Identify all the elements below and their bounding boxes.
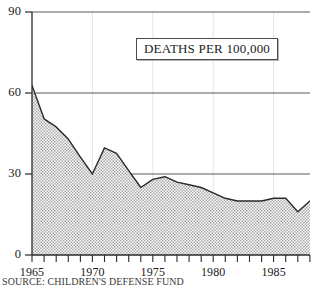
y-tick-label-60: 60 [0, 86, 21, 99]
y-tick-label-90: 90 [0, 5, 21, 18]
y-tick-label-30: 30 [0, 167, 21, 180]
y-tick-marks [25, 12, 32, 255]
chart-title: DEATHS PER 100,000 [144, 42, 270, 55]
source-note: SOURCE: CHILDREN'S DEFENSE FUND [2, 277, 184, 288]
x-tick-label-1985: 1985 [252, 266, 296, 278]
x-tick-label-1980: 1980 [191, 266, 235, 278]
y-tick-label-0: 0 [0, 248, 21, 261]
chart-figure: 90 60 30 0 1965 1970 1975 1980 1985 DEAT… [0, 0, 314, 288]
chart-title-box: DEATHS PER 100,000 [136, 38, 278, 60]
x-tick-marks [32, 255, 310, 262]
